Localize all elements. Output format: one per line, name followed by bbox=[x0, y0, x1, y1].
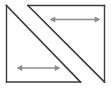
figure-background bbox=[0, 0, 111, 91]
geometry-figure bbox=[0, 0, 111, 91]
figure-canvas bbox=[0, 0, 111, 91]
